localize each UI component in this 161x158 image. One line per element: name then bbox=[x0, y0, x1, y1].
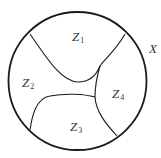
region-label-z1: Z1 bbox=[72, 30, 84, 45]
region-label-z3: Z3 bbox=[70, 120, 82, 135]
region-label-z2-base: Z bbox=[22, 75, 29, 90]
outer-set-label-x: X bbox=[149, 42, 157, 55]
region-label-z4-base: Z bbox=[112, 86, 119, 101]
z1-z2-boundary bbox=[30, 34, 100, 82]
z2-z3-boundary bbox=[30, 94, 95, 130]
region-label-z2: Z2 bbox=[22, 76, 34, 91]
region-label-z3-base: Z bbox=[70, 119, 77, 134]
region-label-z4: Z4 bbox=[112, 87, 124, 102]
region-label-z2-sub: 2 bbox=[30, 82, 34, 91]
region-label-z4-sub: 4 bbox=[120, 93, 124, 102]
z3-z4-boundary bbox=[95, 97, 117, 136]
region-label-z1-sub: 1 bbox=[80, 36, 84, 45]
region-label-z1-base: Z bbox=[72, 29, 79, 44]
region-label-z3-sub: 3 bbox=[78, 126, 82, 135]
z1-z4-boundary bbox=[100, 34, 125, 66]
